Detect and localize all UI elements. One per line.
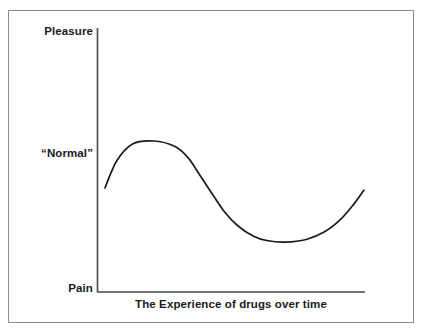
x-axis-title: The Experience of drugs over time [97,298,365,310]
y-axis-label-pleasure: Pleasure [44,25,93,37]
y-axis-label-normal: “Normal” [41,147,93,159]
chart-figure: Pleasure “Normal” Pain The Experience of… [0,0,425,334]
experience-curve-line [105,141,364,242]
plot-area [0,0,425,334]
y-axis-label-pain: Pain [68,282,93,294]
